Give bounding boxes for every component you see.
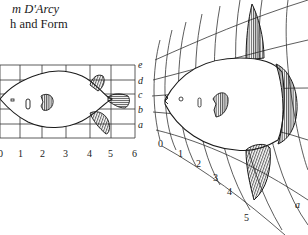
svg-text:0: 0 [158,138,163,149]
svg-text:b: b [138,104,143,115]
right-radial-labels: 0 1 2 3 4 5 a [158,138,300,223]
diagram-canvas: 0 1 2 3 4 5 6 e d c b a [0,0,308,235]
svg-text:5: 5 [108,148,113,159]
svg-text:1: 1 [18,148,23,159]
svg-text:6: 6 [132,148,137,159]
svg-text:e: e [138,59,143,70]
left-y-axis-labels: e d c b a [138,59,144,130]
svg-text:0: 0 [0,148,3,159]
svg-text:2: 2 [196,158,201,169]
svg-text:5: 5 [244,212,249,223]
svg-text:c: c [138,89,143,100]
svg-text:a: a [295,199,300,210]
svg-text:4: 4 [227,186,232,197]
svg-text:3: 3 [213,172,218,183]
svg-text:2: 2 [40,148,45,159]
svg-text:d: d [138,75,144,86]
svg-text:a: a [138,119,143,130]
svg-text:1: 1 [178,148,183,159]
svg-text:4: 4 [87,148,92,159]
svg-text:3: 3 [63,148,68,159]
left-x-axis-labels: 0 1 2 3 4 5 6 [0,148,137,159]
